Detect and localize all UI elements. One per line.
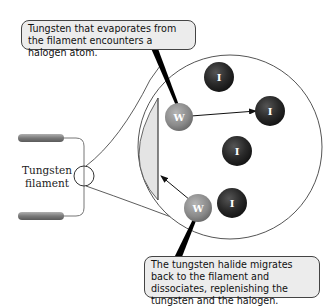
tungsten-atom-1: W [165,103,193,131]
svg-text:I: I [235,146,240,157]
halogen-atom-3: I [222,136,252,166]
svg-text:I: I [230,198,235,209]
filament-label-line2: filament [22,177,72,190]
electrode-top [18,134,64,142]
tungsten-atom-2: W [184,194,212,222]
svg-text:I: I [217,72,222,83]
electrode-bottom [18,212,64,220]
svg-text:W: W [172,112,185,123]
svg-text:W: W [191,203,204,214]
halogen-atom-1: I [204,62,234,92]
halogen-atom-2: I [255,96,285,126]
callout-top: Tungsten that evaporates from the filame… [21,20,196,50]
halogen-atom-4: I [217,188,247,218]
svg-text:I: I [268,106,273,117]
filament-label-line1: Tungsten [22,164,72,177]
callout-bottom: The tungsten halide migrates back to the… [144,256,320,298]
tungsten-filament-label: Tungsten filament [22,164,72,190]
